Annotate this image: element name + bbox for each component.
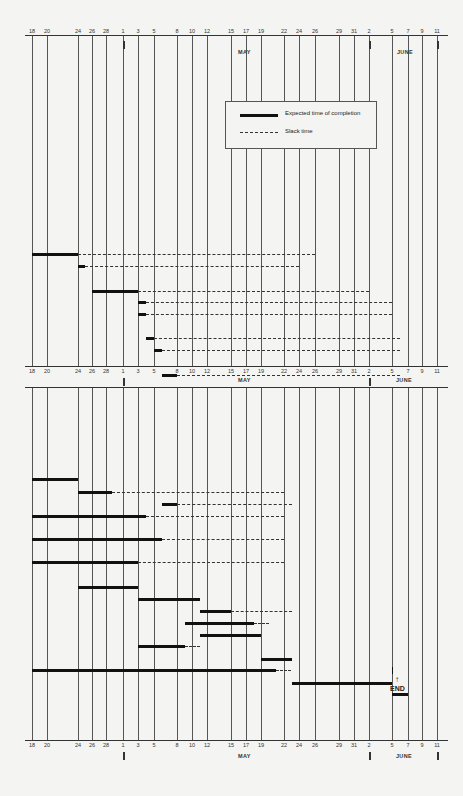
end-connector	[392, 667, 393, 674]
tick-label-top: 28	[103, 28, 109, 34]
lower-task-bar	[185, 622, 254, 625]
tick-label-mid: 1	[121, 368, 124, 374]
tick-label-top: 5	[152, 28, 155, 34]
tick-label-bottom: 3	[136, 742, 139, 748]
upper-slack-line	[154, 338, 400, 339]
tick-label-bottom: 11	[434, 742, 440, 748]
tick-label-bottom: 1	[121, 742, 124, 748]
tick-label-bottom: 26	[89, 742, 95, 748]
tick-label-mid: 5	[390, 368, 393, 374]
grid-line	[207, 387, 208, 740]
tick-label-top: 1	[121, 28, 124, 34]
grid-line	[192, 387, 193, 740]
tick-label-bottom: 19	[258, 742, 264, 748]
upper-slack-line	[85, 266, 299, 267]
tick-label-bottom: 5	[390, 742, 393, 748]
tick-label-bottom: 26	[312, 742, 318, 748]
tick-label-bottom: 12	[204, 742, 210, 748]
tick-label-top: 10	[189, 28, 195, 34]
lower-task-bar	[392, 693, 408, 696]
lower-slack-line	[276, 670, 291, 671]
tick-label-mid: 15	[228, 368, 234, 374]
tick-label-bottom: 10	[189, 742, 195, 748]
tick-label-mid: 7	[406, 368, 409, 374]
upper-slack-line	[78, 254, 315, 255]
grid-line	[315, 387, 316, 740]
upper-slack-line	[146, 302, 392, 303]
grid-line	[392, 35, 393, 366]
month-boundary-mark	[123, 378, 125, 386]
lower-task-bar	[78, 586, 138, 589]
tick-label-mid: 31	[351, 368, 357, 374]
grid-line	[284, 35, 285, 366]
lower-task-bar	[78, 491, 112, 494]
tick-label-bottom: 17	[243, 742, 249, 748]
tick-label-top: 3	[136, 28, 139, 34]
lower-slack-line	[138, 562, 284, 563]
tick-label-bottom: 31	[351, 742, 357, 748]
grid-line	[299, 35, 300, 366]
lower-slack-line	[177, 504, 292, 505]
upper-slack-line	[138, 291, 369, 292]
tick-label-top: 20	[44, 28, 50, 34]
tick-label-top: 31	[351, 28, 357, 34]
grid-line	[123, 35, 124, 366]
tick-label-mid: 12	[204, 368, 210, 374]
tick-label-top: 9	[420, 28, 423, 34]
lower-task-bar	[200, 610, 232, 613]
grid-line	[261, 35, 262, 366]
tick-label-top: 24	[296, 28, 302, 34]
arrow-up-icon: ↑	[395, 675, 399, 684]
legend-expected-label: Expected time of completion	[285, 110, 360, 116]
tick-label-bottom: 7	[406, 742, 409, 748]
tick-label-bottom: 24	[75, 742, 81, 748]
grid-line	[177, 35, 178, 366]
grid-line	[154, 35, 155, 366]
upper-task-bar	[138, 313, 146, 316]
upper-task-bar	[92, 290, 138, 293]
grid-line	[192, 35, 193, 366]
tick-label-bottom: 9	[420, 742, 423, 748]
tick-label-top: 26	[89, 28, 95, 34]
tick-label-bottom: 29	[336, 742, 342, 748]
axis-line-top	[25, 387, 448, 388]
lower-task-bar	[292, 682, 393, 685]
grid-line	[154, 387, 155, 740]
month-label-may-bottom: MAY	[238, 753, 251, 759]
lower-task-bar	[32, 669, 276, 672]
month-label-may-mid: MAY	[238, 377, 251, 383]
grid-line	[284, 387, 285, 740]
end-label: END	[390, 685, 405, 692]
month-boundary-mark	[123, 752, 125, 760]
upper-task-bar	[138, 301, 146, 304]
lower-task-bar	[32, 561, 138, 564]
tick-label-bottom: 8	[175, 742, 178, 748]
grid-line	[437, 387, 438, 740]
grid-line	[261, 387, 262, 740]
lower-task-bar	[138, 598, 200, 601]
legend-dashed-swatch	[240, 132, 278, 133]
tick-label-bottom: 2	[367, 742, 370, 748]
tick-label-top: 19	[258, 28, 264, 34]
month-label-may-top: MAY	[238, 49, 251, 55]
tick-label-top: 17	[243, 28, 249, 34]
tick-label-mid: 2	[367, 368, 370, 374]
upper-slack-line	[162, 350, 400, 351]
tick-label-mid: 24	[75, 368, 81, 374]
grid-line	[299, 387, 300, 740]
grid-line	[354, 387, 355, 740]
tick-label-top: 18	[29, 28, 35, 34]
month-boundary-mark	[437, 41, 439, 49]
tick-label-mid: 26	[89, 368, 95, 374]
tick-label-mid: 5	[152, 368, 155, 374]
month-label-june-mid: JUNE	[396, 377, 412, 383]
axis-line-bottom	[25, 740, 448, 741]
grid-line	[408, 387, 409, 740]
month-boundary-mark	[369, 378, 371, 386]
grid-line	[246, 387, 247, 740]
upper-task-bar	[32, 253, 78, 256]
grid-line	[78, 35, 79, 366]
month-boundary-mark	[123, 41, 125, 49]
tick-label-mid: 28	[103, 368, 109, 374]
legend-solid-swatch	[240, 114, 278, 117]
